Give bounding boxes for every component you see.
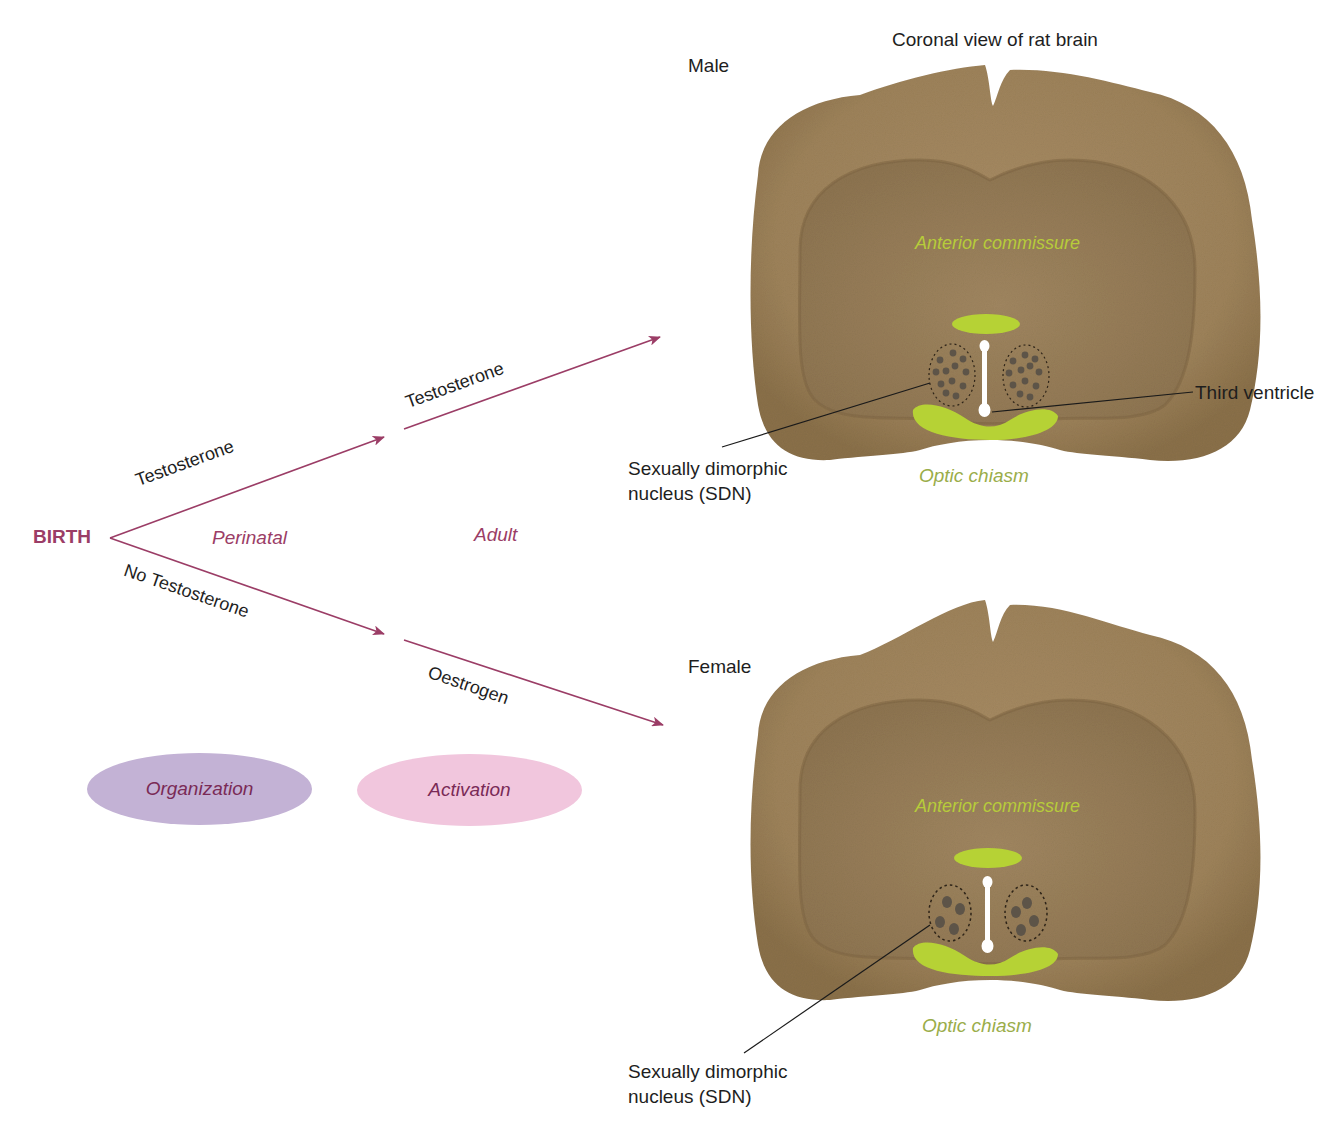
female-third-ventricle-shape [985, 882, 990, 944]
female-label: Female [688, 656, 751, 678]
diagram-canvas [0, 0, 1343, 1138]
birth-label: BIRTH [33, 526, 91, 548]
activation-phase: Activation [357, 754, 582, 826]
figure-title: Coronal view of rat brain [892, 29, 1098, 51]
male-brain-illustration [751, 65, 1261, 461]
male-anterior-commissure-shape [952, 314, 1020, 334]
organization-phase: Organization [87, 753, 312, 825]
female-anterior-commissure-label: Anterior commissure [915, 796, 1080, 817]
arrow-birth-to-testosterone [110, 437, 384, 538]
third-ventricle-label: Third ventricle [1195, 382, 1314, 404]
adult-label: Adult [474, 524, 517, 546]
male-label: Male [688, 55, 729, 77]
activation-label: Activation [428, 779, 510, 801]
female-optic-chiasm-label: Optic chiasm [922, 1015, 1032, 1037]
male-third-ventricle-shape [982, 346, 987, 408]
timeline-arrows [110, 337, 663, 725]
male-optic-chiasm-label: Optic chiasm [919, 465, 1029, 487]
male-sdn-label: Sexually dimorphic nucleus (SDN) [628, 456, 787, 506]
organization-label: Organization [146, 778, 254, 800]
female-sdn-label: Sexually dimorphic nucleus (SDN) [628, 1059, 787, 1109]
male-anterior-commissure-label: Anterior commissure [915, 233, 1080, 254]
female-anterior-commissure-shape [954, 848, 1022, 868]
perinatal-label: Perinatal [212, 527, 287, 549]
